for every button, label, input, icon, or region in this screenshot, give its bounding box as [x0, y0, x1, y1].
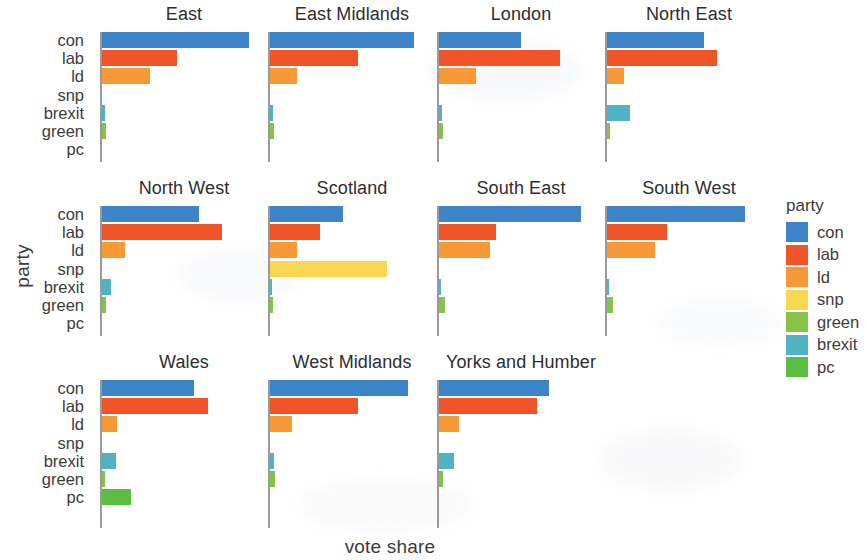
- facet-row-2: conlabldsnpbrexitgreenpcNorth WestScotla…: [0, 178, 790, 342]
- y-tick-brexit: brexit: [44, 104, 84, 122]
- facet-panel-yorks-and-humber: Yorks and Humber: [437, 352, 605, 530]
- legend-label: brexit: [817, 335, 857, 354]
- legend-item-con[interactable]: con: [782, 221, 867, 244]
- bar-green: [270, 471, 275, 487]
- facet-title: North West: [100, 178, 268, 199]
- y-tick-lab: lab: [62, 49, 84, 67]
- facet-row-1: conlabldsnpbrexitgreenpcEastEast Midland…: [0, 4, 790, 168]
- facet-bar-chart: party vote share conlabldsnpbrexitgreenp…: [0, 0, 867, 560]
- legend-swatch-icon: [786, 290, 808, 310]
- facet-title: London: [437, 4, 605, 25]
- bar-ld: [102, 242, 125, 258]
- facet-panel-wales: Wales: [100, 352, 268, 530]
- bar-con: [270, 206, 343, 222]
- legend-swatch-icon: [786, 357, 808, 377]
- legend-label: pc: [817, 358, 834, 377]
- legend-swatch-icon: [786, 267, 808, 287]
- legend-item-ld[interactable]: ld: [782, 266, 867, 289]
- legend-swatch-icon: [786, 335, 808, 355]
- bar-brexit: [607, 105, 630, 121]
- facet-title: North East: [605, 4, 773, 25]
- bar-con: [102, 206, 199, 222]
- bar-con: [102, 32, 249, 48]
- legend-label: lab: [817, 245, 839, 264]
- legend-swatch-icon: [786, 312, 808, 332]
- y-tick-pc: pc: [67, 314, 84, 332]
- bar-brexit: [270, 453, 274, 469]
- legend-swatch-icon: [786, 245, 808, 265]
- legend-item-lab[interactable]: lab: [782, 244, 867, 267]
- y-tick-lab: lab: [62, 397, 84, 415]
- bar-con: [607, 32, 704, 48]
- bar-lab: [439, 224, 496, 240]
- bar-lab: [607, 224, 667, 240]
- bar-pc: [102, 489, 131, 505]
- facet-plot-area: [268, 32, 436, 162]
- legend-item-pc[interactable]: pc: [782, 356, 867, 379]
- facet-plot-area: [100, 32, 268, 162]
- y-tick-lab: lab: [62, 223, 84, 241]
- y-tick-pc: pc: [67, 488, 84, 506]
- bar-con: [439, 206, 581, 222]
- bar-ld: [607, 242, 655, 258]
- bar-brexit: [102, 453, 116, 469]
- bar-ld: [607, 68, 624, 84]
- y-tick-green: green: [42, 296, 84, 314]
- legend-item-brexit[interactable]: brexit: [782, 334, 867, 357]
- facet-panel-london: London: [437, 4, 605, 168]
- bar-green: [102, 471, 105, 487]
- facet-panel-south-west: South West: [605, 178, 773, 342]
- bar-brexit: [270, 105, 273, 121]
- bar-brexit: [270, 279, 272, 295]
- facet-title: East Midlands: [268, 4, 436, 25]
- facet-plot-area: [268, 380, 436, 528]
- x-axis-title: vote share: [0, 536, 780, 558]
- bar-brexit: [607, 279, 609, 295]
- bar-ld: [270, 68, 297, 84]
- bar-con: [439, 380, 549, 396]
- facet-title: South West: [605, 178, 773, 199]
- y-tick-brexit: brexit: [44, 452, 84, 470]
- y-tick-green: green: [42, 470, 84, 488]
- facet-row-3: conlabldsnpbrexitgreenpcWalesWest Midlan…: [0, 352, 790, 530]
- legend-title: party: [786, 196, 867, 216]
- facet-plot-area: [437, 206, 605, 336]
- legend-label: con: [817, 223, 844, 242]
- bar-ld: [270, 242, 297, 258]
- y-tick-green: green: [42, 122, 84, 140]
- y-tick-pc: pc: [67, 140, 84, 158]
- legend-label: snp: [817, 290, 844, 309]
- facet-title: South East: [437, 178, 605, 199]
- legend-item-snp[interactable]: snp: [782, 289, 867, 312]
- bar-green: [439, 471, 443, 487]
- bar-snp: [270, 261, 387, 277]
- bar-brexit: [439, 453, 454, 469]
- bar-lab: [270, 398, 358, 414]
- facet-panel-north-east: North East: [605, 4, 773, 168]
- y-tick-ld: ld: [71, 415, 84, 433]
- facet-plot-area: [605, 206, 773, 336]
- bar-green: [102, 297, 106, 313]
- bar-lab: [102, 50, 177, 66]
- bar-ld: [439, 416, 459, 432]
- facet-plot-area: [100, 380, 268, 528]
- y-tick-con: con: [57, 31, 84, 49]
- y-tick-con: con: [57, 379, 84, 397]
- bar-green: [439, 123, 443, 139]
- bar-lab: [607, 50, 717, 66]
- bar-con: [270, 380, 408, 396]
- legend-label: ld: [817, 268, 830, 287]
- facet-plot-area: [437, 380, 605, 528]
- bar-brexit: [439, 279, 441, 295]
- y-tick-snp: snp: [57, 260, 84, 278]
- bar-green: [607, 123, 610, 139]
- legend-label: green: [817, 313, 859, 332]
- bar-green: [102, 123, 106, 139]
- bar-green: [607, 297, 613, 313]
- bar-con: [439, 32, 521, 48]
- y-tick-ld: ld: [71, 67, 84, 85]
- y-tick-snp: snp: [57, 434, 84, 452]
- legend-item-green[interactable]: green: [782, 311, 867, 334]
- bar-lab: [270, 224, 320, 240]
- bar-ld: [439, 68, 476, 84]
